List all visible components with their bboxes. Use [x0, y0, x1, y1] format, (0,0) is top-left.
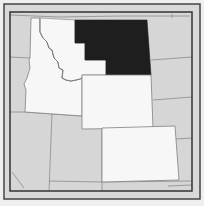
state-colorado	[102, 126, 179, 182]
locator-map	[0, 0, 204, 206]
state-wyoming	[82, 75, 153, 129]
